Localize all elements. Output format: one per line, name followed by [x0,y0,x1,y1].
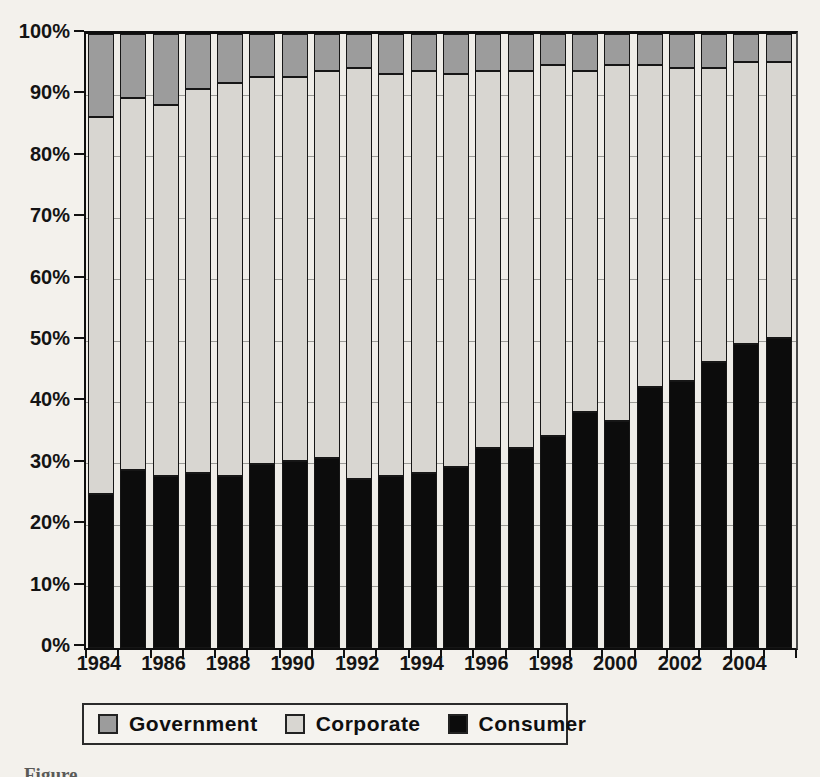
plot-area [84,31,798,650]
y-axis-tick [74,91,84,93]
x-axis-label-1996: 1996 [453,652,519,675]
bar-segment-consumer-1997 [508,448,534,648]
stacked-bar-1994 [411,34,437,648]
legend-swatch-government [98,714,118,734]
bar-segment-corporate-1996 [475,71,501,449]
bar-segment-government-1993 [378,34,404,74]
stacked-bar-2000 [604,34,630,648]
bar-segment-consumer-1993 [378,476,404,648]
y-axis-tick [74,460,84,462]
stacked-bar-2003 [701,34,727,648]
y-axis-label-60: 60% [4,265,70,289]
x-axis-label-2004: 2004 [711,652,777,675]
stacked-bar-1995 [443,34,469,648]
stacked-bar-1992 [346,34,372,648]
bar-segment-corporate-2000 [604,65,630,421]
legend-item-corporate: Corporate [285,712,421,736]
figure-caption-clipped: Figure [24,764,244,777]
bar-segment-government-1998 [540,34,566,65]
x-axis-label-1994: 1994 [389,652,455,675]
x-axis-label-1998: 1998 [518,652,584,675]
y-axis-label-40: 40% [4,387,70,411]
y-axis-tick [74,30,84,32]
x-axis-label-1992: 1992 [324,652,390,675]
bar-segment-corporate-1986 [153,105,179,476]
bar-segment-consumer-2004 [733,344,759,648]
stacked-bar-2002 [669,34,695,648]
bar-segment-corporate-2005 [766,62,792,338]
bar-segment-consumer-1991 [314,458,340,648]
bar-segment-consumer-1988 [217,476,243,648]
stacked-bar-2005 [766,34,792,648]
scanned-figure-page: 0%10%20%30%40%50%60%70%80%90%100% 198419… [0,0,820,777]
legend-swatch-corporate [285,714,305,734]
bar-segment-government-1987 [185,34,211,89]
bar-segment-government-1991 [314,34,340,71]
bar-segment-corporate-1987 [185,89,211,473]
bar-segment-consumer-1999 [572,412,598,648]
bar-segment-consumer-2005 [766,338,792,648]
bar-segment-corporate-1998 [540,65,566,436]
bar-segment-government-2000 [604,34,630,65]
bar-segment-government-1992 [346,34,372,68]
x-axis-label-1984: 1984 [66,652,132,675]
bar-segment-government-2001 [637,34,663,65]
stacked-bar-2004 [733,34,759,648]
stacked-bar-1984 [88,34,114,648]
stacked-bar-1985 [120,34,146,648]
bar-segment-corporate-1985 [120,98,146,469]
bar-segment-government-2004 [733,34,759,62]
bar-segment-corporate-1993 [378,74,404,476]
x-axis-label-1990: 1990 [260,652,326,675]
bar-segment-consumer-1989 [249,464,275,648]
bar-segment-corporate-1995 [443,74,469,467]
bar-segment-government-1996 [475,34,501,71]
bar-segment-consumer-1998 [540,436,566,648]
stacked-bar-1996 [475,34,501,648]
bar-segment-government-1988 [217,34,243,83]
bar-segment-corporate-1989 [249,77,275,464]
y-axis-tick [74,337,84,339]
bar-segment-corporate-1984 [88,117,114,495]
y-axis-tick [74,214,84,216]
bar-segment-corporate-1991 [314,71,340,458]
legend-swatch-consumer [448,714,468,734]
stacked-bar-1991 [314,34,340,648]
bar-segment-government-1995 [443,34,469,74]
bar-segment-consumer-1994 [411,473,437,648]
bar-segment-consumer-1990 [282,461,308,648]
bar-segment-government-1994 [411,34,437,71]
y-axis-tick [74,644,84,646]
bar-segment-consumer-1992 [346,479,372,648]
x-axis-tick [795,650,797,658]
bar-segment-government-1984 [88,34,114,117]
x-axis-label-1988: 1988 [195,652,261,675]
y-axis-label-30: 30% [4,449,70,473]
bar-segment-government-2005 [766,34,792,62]
bar-segment-corporate-2004 [733,62,759,344]
y-axis-tick [74,153,84,155]
bar-segment-consumer-1995 [443,467,469,648]
bar-segment-consumer-1996 [475,448,501,648]
bar-segment-government-1989 [249,34,275,77]
bar-segment-consumer-2001 [637,387,663,648]
bar-segment-corporate-1988 [217,83,243,476]
x-axis-label-1986: 1986 [131,652,197,675]
stacked-bar-1986 [153,34,179,648]
stacked-bar-1987 [185,34,211,648]
legend-label-consumer: Consumer [479,712,587,736]
stacked-bar-1998 [540,34,566,648]
bar-segment-corporate-1994 [411,71,437,473]
bar-segment-government-1985 [120,34,146,98]
bar-segment-government-2003 [701,34,727,68]
bar-segment-corporate-1990 [282,77,308,461]
y-axis-label-0: 0% [4,633,70,657]
bar-segment-consumer-1985 [120,470,146,648]
bar-segment-consumer-1987 [185,473,211,648]
y-axis-label-50: 50% [4,326,70,350]
stacked-bar-1990 [282,34,308,648]
stacked-bar-1988 [217,34,243,648]
legend-item-government: Government [98,712,258,736]
stacked-bar-2001 [637,34,663,648]
bar-segment-government-1997 [508,34,534,71]
